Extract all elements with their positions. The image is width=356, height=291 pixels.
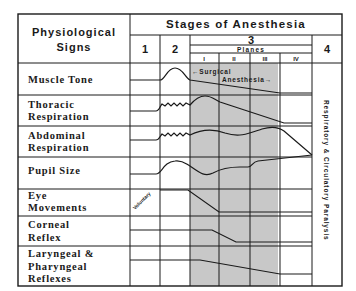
surgical-annotation: ←Surgical [192, 68, 231, 76]
signs-header-line2: Signs [57, 41, 92, 53]
plane-iv-label: IV [293, 56, 299, 62]
planes-label: Planes [237, 46, 265, 53]
row-label-laryngeal-3: Reflexes [28, 273, 72, 284]
signs-header-line1: Physiological [32, 26, 116, 38]
stage-3-label: 3 [248, 34, 254, 46]
plane-i-label: I [203, 56, 205, 62]
row-label-eye-1: Eye [28, 190, 47, 201]
stage-1-label: 1 [142, 43, 148, 55]
row-label-thoracic-2: Respiration [28, 111, 89, 122]
plane-ii-label: II [232, 56, 236, 62]
anesthesia-stages-diagram: Physiological Signs Stages of Anesthesia… [0, 0, 356, 291]
row-label-abdominal-2: Respiration [28, 142, 89, 153]
stage-4-label: 4 [324, 43, 331, 55]
row-label-corneal-2: Reflex [28, 232, 61, 243]
row-label-thoracic-1: Thoracic [28, 99, 75, 110]
row-label-abdominal-1: Abdominal [28, 130, 85, 141]
plane-iii-label: III [262, 56, 267, 62]
voluntary-annotation: Voluntary [131, 190, 151, 210]
stage-2-label: 2 [172, 43, 178, 55]
row-label-eye-2: Movements [28, 202, 87, 213]
stage4-paralysis-annotation: Respiratory & Circulatory Paralysis [322, 100, 330, 241]
stages-title: Stages of Anesthesia [166, 18, 306, 30]
row-label-pupil-size: Pupil Size [28, 165, 81, 176]
row-label-muscle-tone: Muscle Tone [28, 74, 93, 85]
row-label-laryngeal-2: Pharyngeal [28, 261, 87, 272]
anesthesia-annotation: Anesthesia→ [222, 76, 272, 83]
row-label-corneal-1: Corneal [28, 219, 70, 230]
row-label-laryngeal-1: Laryngeal & [28, 248, 94, 259]
